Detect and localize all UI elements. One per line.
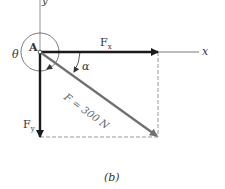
fx-label-sub: x	[108, 43, 112, 51]
alpha-label: α	[82, 61, 89, 72]
figure-caption: (b)	[104, 172, 120, 183]
x-axis-label: x	[202, 46, 208, 57]
fx-label: Fx	[100, 37, 112, 51]
point-a-dot	[38, 50, 42, 54]
fy-label-sub: y	[31, 125, 35, 133]
alpha-arc	[74, 52, 80, 72]
fy-label: Fy	[23, 119, 35, 133]
point-a-label: A	[29, 42, 38, 53]
fx-label-main: F	[100, 36, 108, 49]
theta-label: θ	[12, 49, 19, 60]
y-axis-label: y	[42, 0, 48, 6]
force-diagram: y x A θ α Fx Fy F = 300 N (b)	[0, 0, 225, 189]
diagram-graphics	[0, 0, 225, 189]
fy-label-main: F	[23, 118, 31, 131]
